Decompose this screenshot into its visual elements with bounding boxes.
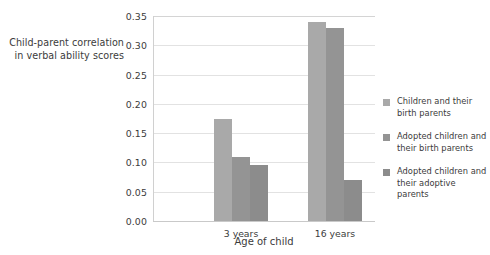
y-axis-tick-label: 0.35 [126, 11, 147, 22]
gridline [153, 16, 375, 17]
y-axis-tick-label: 0.05 [126, 186, 147, 197]
y-axis-line [153, 16, 154, 222]
y-axis-title: Child-parent correlation in verbal abili… [2, 36, 124, 62]
bar [250, 165, 268, 221]
y-axis-tick-label: 0.15 [126, 128, 147, 139]
y-axis-tick-label: 0.10 [126, 157, 147, 168]
legend-swatch [383, 169, 390, 176]
bar [326, 28, 344, 221]
legend-label: Adopted children andtheir birth parents [397, 131, 489, 154]
legend: Children and theirbirth parentsAdopted c… [383, 96, 489, 212]
legend-label-line-2: their adoptive parents [397, 178, 489, 201]
y-axis-tick-label: 0.30 [126, 40, 147, 51]
y-axis-title-line-2: in verbal ability scores [2, 49, 124, 62]
legend-label-line-2: birth parents [397, 108, 489, 120]
y-axis-title-line-1: Child-parent correlation [2, 36, 124, 49]
legend-label-line-1: Children and their [397, 96, 489, 108]
bar [308, 22, 326, 221]
y-axis-tick-label: 0.00 [126, 216, 147, 227]
legend-item: Children and theirbirth parents [383, 96, 489, 120]
legend-swatch [383, 134, 390, 141]
plot-area: 0.000.050.100.150.200.250.300.35 3 years… [153, 16, 375, 222]
legend-label-line-1: Adopted children and [397, 166, 489, 178]
legend-label-line-1: Adopted children and [397, 131, 489, 143]
y-axis-tick-label: 0.20 [126, 98, 147, 109]
legend-item: Adopted children andtheir adoptive paren… [383, 166, 489, 201]
bar [232, 157, 250, 221]
bar-chart: Child-parent correlation in verbal abili… [0, 0, 490, 255]
bar [344, 180, 362, 221]
bar [214, 119, 232, 222]
legend-label-line-2: their birth parents [397, 143, 489, 155]
legend-label: Children and theirbirth parents [397, 96, 489, 119]
legend-item: Adopted children andtheir birth parents [383, 131, 489, 155]
y-axis-tick-label: 0.25 [126, 69, 147, 80]
legend-swatch [383, 99, 390, 106]
x-axis-line [153, 221, 375, 222]
legend-label: Adopted children andtheir adoptive paren… [397, 166, 489, 201]
x-axis-title: Age of child [153, 236, 375, 247]
